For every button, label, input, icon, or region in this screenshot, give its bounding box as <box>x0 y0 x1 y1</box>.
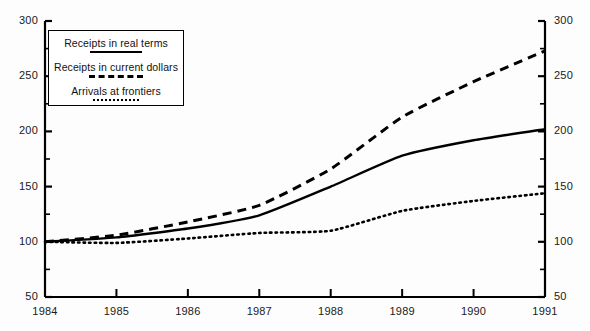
legend-swatch-dotted-line <box>93 99 139 101</box>
y-axis-left-tick-label: 250 <box>2 70 38 81</box>
x-axis-tick-label: 1986 <box>163 306 213 317</box>
y-axis-left-tick-label: 50 <box>2 291 38 302</box>
legend-label: Arrivals at frontiers <box>49 86 183 97</box>
y-axis-right-tick-label: 150 <box>554 181 590 192</box>
y-axis-left-tick-label: 150 <box>2 181 38 192</box>
line-chart: 30025020015010050 30025020015010050 1984… <box>0 0 590 331</box>
y-axis-right-tick-label: 250 <box>554 70 590 81</box>
legend-entry-receipts-current-dollars: Receipts in current dollars <box>49 62 183 78</box>
x-axis-tick-label: 1990 <box>449 306 499 317</box>
legend-swatch-solid-line <box>90 51 142 53</box>
y-axis-left-tick-label: 100 <box>2 236 38 247</box>
legend-label: Receipts in real terms <box>49 38 183 49</box>
y-axis-left-tick-label: 200 <box>2 125 38 136</box>
legend-entry-receipts-real-terms: Receipts in real terms <box>49 38 183 53</box>
y-axis-left-tick-label: 300 <box>2 15 38 26</box>
y-axis-right-tick-label: 100 <box>554 236 590 247</box>
legend-swatch-dashed-line <box>89 75 143 78</box>
x-axis-tick-label: 1988 <box>306 306 356 317</box>
legend-label: Receipts in current dollars <box>49 62 183 73</box>
y-axis-right-tick-label: 200 <box>554 125 590 136</box>
y-axis-right-tick-label: 300 <box>554 15 590 26</box>
legend: Receipts in real terms Receipts in curre… <box>48 30 184 106</box>
x-axis-tick-label: 1985 <box>91 306 141 317</box>
series-line-receipts-real-terms <box>45 129 545 242</box>
x-axis-tick-label: 1984 <box>20 306 70 317</box>
x-axis-tick-label: 1991 <box>520 306 570 317</box>
x-axis-tick-label: 1989 <box>377 306 427 317</box>
legend-entry-arrivals-at-frontiers: Arrivals at frontiers <box>49 86 183 101</box>
x-axis-tick-label: 1987 <box>234 306 284 317</box>
y-axis-right-tick-label: 50 <box>554 291 590 302</box>
